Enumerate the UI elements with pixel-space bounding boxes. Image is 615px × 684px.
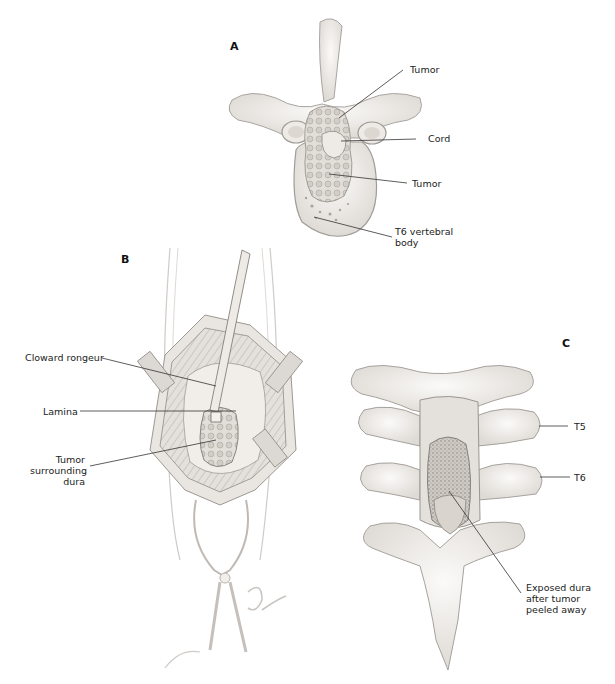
label-b-cloward-rongeur: Cloward rongeur [25,352,104,363]
label-c-dura-line2: after tumor [526,593,591,604]
label-b-lamina: Lamina [43,406,78,417]
label-c-dura-line1: Exposed dura [526,582,591,593]
label-a-t6-vertebral-body: T6 vertebral body [395,226,453,248]
label-b-tumor-line1: Tumor [30,454,85,465]
label-a-t6-line1: T6 vertebral [395,226,453,237]
figure-canvas: A B C Tumor Cord Tumor T6 vertebral body… [0,0,615,684]
label-b-tumor-line3: dura [30,476,85,487]
label-a-tumor-lower: Tumor [412,178,441,189]
label-c-t6: T6 [574,472,586,483]
label-c-dura-line3: peeled away [526,604,591,615]
panel-b-surgical-field-drawing [80,248,303,668]
panel-letter-a: A [230,40,239,53]
label-a-t6-line2: body [395,237,453,248]
label-a-tumor-upper: Tumor [410,64,439,75]
illustration-artwork [0,0,615,684]
label-c-t5: T5 [574,421,586,432]
panel-a-vertebra-drawing [229,19,421,237]
label-b-tumor-line2: surrounding [30,465,85,476]
label-b-tumor-surrounding-dura: Tumor surrounding dura [30,454,85,487]
panel-letter-c: C [562,337,570,350]
panel-c-posterior-spine-drawing [351,365,570,670]
label-c-exposed-dura: Exposed dura after tumor peeled away [526,582,591,615]
panel-letter-b: B [121,253,129,266]
label-a-cord: Cord [428,133,450,144]
